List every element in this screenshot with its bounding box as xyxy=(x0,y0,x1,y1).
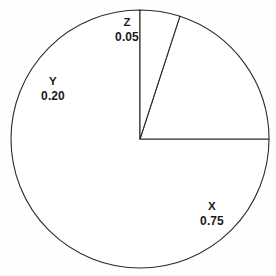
pie-chart: X0.75Y0.20Z0.05 xyxy=(0,0,276,276)
pie-slices-group xyxy=(11,10,269,268)
pie-chart-canvas xyxy=(0,0,276,276)
